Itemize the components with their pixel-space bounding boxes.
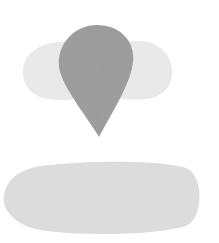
abstract-shapes-illustration xyxy=(0,0,219,243)
graphic-canvas xyxy=(0,0,219,243)
base-ellipse-shape xyxy=(4,162,200,234)
teardrop-shape xyxy=(59,25,133,137)
